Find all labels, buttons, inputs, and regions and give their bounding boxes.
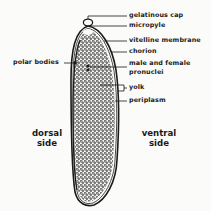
label-chorion: chorion	[129, 48, 157, 55]
leader-gelatinous-cap	[88, 16, 127, 19]
label-pronuclei-line1: male and female	[129, 60, 191, 67]
micropyle	[83, 29, 93, 35]
egg-diagram	[0, 0, 211, 211]
dorsal-line2: side	[22, 138, 72, 148]
gelatinous-cap	[83, 19, 92, 26]
label-yolk: yolk	[129, 84, 144, 91]
label-ventral-side: ventral side	[134, 128, 184, 148]
ventral-line2: side	[134, 138, 184, 148]
label-gelatinous-cap: gelatinous cap	[129, 12, 183, 19]
label-pronuclei-line2: pronuclei	[129, 69, 164, 76]
ventral-line1: ventral	[134, 128, 184, 138]
label-polar-bodies: polar bodies	[13, 59, 59, 66]
pronucleus-male	[86, 64, 89, 67]
label-vitelline-membrane: vitelline membrane	[129, 37, 201, 44]
dorsal-line1: dorsal	[22, 128, 72, 138]
label-micropyle: micropyle	[129, 22, 165, 29]
label-periplasm: periplasm	[129, 97, 166, 104]
label-dorsal-side: dorsal side	[22, 128, 72, 148]
pronucleus-female	[87, 69, 90, 72]
